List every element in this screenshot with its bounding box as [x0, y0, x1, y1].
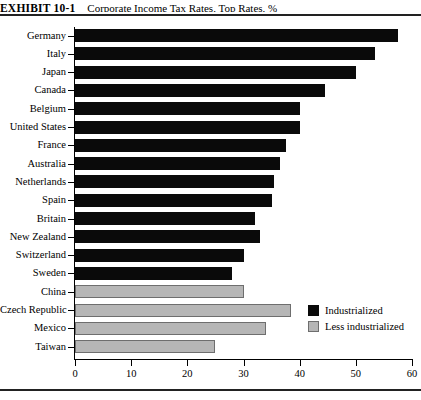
category-label-text: New Zealand — [0, 231, 66, 242]
x-axis-tick-label: 20 — [172, 368, 202, 379]
bar-fill — [75, 340, 215, 353]
category-label-text: China — [0, 286, 66, 297]
figure-divider-bottom — [0, 389, 421, 391]
bar-fill — [75, 157, 280, 170]
category-label-australia: Australia — [0, 158, 66, 169]
chart-legend: Industrialized Less industrialized — [308, 303, 418, 335]
y-axis-tick — [68, 72, 74, 73]
bar-fill — [75, 267, 232, 280]
title-divider-top — [0, 14, 421, 16]
category-label-text: Switzerland — [0, 249, 66, 260]
legend-item-industrialized[interactable]: Industrialized — [308, 303, 418, 319]
y-axis-tick — [68, 182, 74, 183]
x-axis-tick-label: 40 — [285, 368, 315, 379]
x-axis-tick-label: 30 — [229, 368, 259, 379]
category-label-text: Italy — [0, 48, 66, 59]
y-axis-tick — [68, 328, 74, 329]
exhibit-number: EXHIBIT 10-1 — [0, 2, 75, 12]
category-label-spain: Spain — [0, 194, 66, 205]
bar-fill — [75, 29, 398, 42]
category-label-taiwan: Taiwan — [0, 341, 66, 352]
y-axis-tick — [68, 273, 74, 274]
x-axis-tick — [187, 360, 188, 366]
category-label-text: Britain — [0, 213, 66, 224]
category-label-text: Australia — [0, 158, 66, 169]
page-title: Corporate Income Tax Rates, Top Rates, % — [87, 2, 277, 12]
bar-fill — [75, 230, 260, 243]
category-label-text: Spain — [0, 194, 66, 205]
y-axis-tick — [68, 219, 74, 220]
category-label-germany: Germany — [0, 30, 66, 41]
category-label-text: Belgium — [0, 103, 66, 114]
x-axis-tick — [75, 360, 76, 366]
legend-label: Industrialized — [325, 303, 383, 318]
legend-label: Less industrialized — [325, 319, 404, 334]
bar-fill — [75, 322, 266, 335]
y-axis-tick — [68, 200, 74, 201]
category-label-text: Czech Republic — [0, 304, 66, 315]
category-label-britain: Britain — [0, 213, 66, 224]
x-axis-tick — [131, 360, 132, 366]
y-axis-tick — [68, 127, 74, 128]
category-label-belgium: Belgium — [0, 103, 66, 114]
y-axis-tick — [68, 164, 74, 165]
x-axis-tick-label: 60 — [397, 368, 421, 379]
category-label-text: United States — [0, 121, 66, 132]
y-axis-tick — [68, 36, 74, 37]
exhibit-figure: EXHIBIT 10-1 Corporate Income Tax Rates,… — [0, 0, 421, 400]
category-label-france: France — [0, 139, 66, 150]
y-axis-tick — [68, 237, 74, 238]
x-axis-tick — [300, 360, 301, 366]
exhibit-title-row: EXHIBIT 10-1 Corporate Income Tax Rates,… — [0, 0, 421, 12]
category-label-china: China — [0, 286, 66, 297]
category-label-switzerland: Switzerland — [0, 249, 66, 260]
y-axis-tick — [68, 255, 74, 256]
y-axis-tick — [68, 109, 74, 110]
bar-fill — [75, 66, 356, 79]
category-label-united-states: United States — [0, 121, 66, 132]
category-label-sweden: Sweden — [0, 267, 66, 278]
category-label-text: France — [0, 139, 66, 150]
bar-fill — [75, 285, 244, 298]
category-label-text: Mexico — [0, 322, 66, 333]
bar-fill — [75, 121, 300, 134]
bar-fill — [75, 304, 291, 317]
category-label-czech-republic: Czech Republic — [0, 304, 66, 315]
bar-fill — [75, 102, 300, 115]
x-axis-tick — [412, 360, 413, 366]
y-axis-tick — [68, 347, 74, 348]
bar-fill — [75, 249, 244, 262]
category-label-text: Canada — [0, 84, 66, 95]
x-axis-tick — [244, 360, 245, 366]
category-label-japan: Japan — [0, 66, 66, 77]
bar-fill — [75, 47, 375, 60]
bar-fill — [75, 175, 274, 188]
y-axis-tick — [68, 90, 74, 91]
category-label-text: Sweden — [0, 267, 66, 278]
category-label-new-zealand: New Zealand — [0, 231, 66, 242]
bar-fill — [75, 84, 325, 97]
black-square-icon — [308, 305, 319, 316]
x-axis-tick-label: 0 — [60, 368, 90, 379]
bar-fill — [75, 194, 272, 207]
category-label-mexico: Mexico — [0, 322, 66, 333]
x-axis-tick — [356, 360, 357, 366]
gray-square-icon — [308, 321, 319, 332]
category-label-text: Taiwan — [0, 341, 66, 352]
bar-fill — [75, 139, 286, 152]
x-axis-tick-label: 10 — [116, 368, 146, 379]
bar-fill — [75, 212, 255, 225]
y-axis-tick — [68, 54, 74, 55]
legend-item-less-industrialized[interactable]: Less industrialized — [308, 319, 418, 335]
category-label-italy: Italy — [0, 48, 66, 59]
y-axis-tick — [68, 145, 74, 146]
category-label-text: Netherlands — [0, 176, 66, 187]
y-axis-tick — [68, 292, 74, 293]
category-label-text: Japan — [0, 66, 66, 77]
x-axis-tick-label: 50 — [341, 368, 371, 379]
category-label-text: Germany — [0, 30, 66, 41]
y-axis-tick — [68, 310, 74, 311]
category-label-canada: Canada — [0, 84, 66, 95]
category-label-netherlands: Netherlands — [0, 176, 66, 187]
